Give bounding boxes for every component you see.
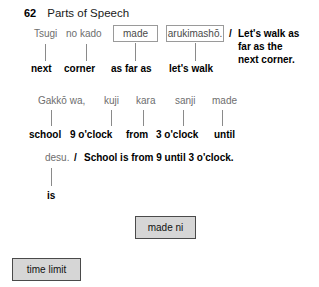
example2-gloss-5: until	[214, 129, 235, 140]
example1-gloss-3: as far as	[111, 63, 152, 74]
example2-translation-marker-wrap: /	[74, 152, 77, 163]
example1-token-4-box: arukimashō.	[166, 25, 224, 42]
example2-token-1: Gakkō wa,	[38, 95, 85, 106]
example1-token-4: arukimashō.	[168, 28, 222, 39]
example2-translation-wrap: School is from 9 until 3 o'clock.	[84, 152, 234, 163]
example2-continuation-token: desu.	[45, 152, 69, 163]
example2-translation: School is from 9 until 3 o'clock.	[84, 152, 234, 163]
example2-token-4: sanji	[175, 95, 196, 106]
example2-continuation-tick	[51, 168, 52, 186]
example2-translation-marker: /	[74, 152, 77, 163]
example1-tick-4	[195, 43, 196, 61]
example2-tick-3	[143, 110, 144, 126]
chip-made-ni[interactable]: made ni	[135, 216, 196, 239]
example2-tick-4	[183, 110, 184, 126]
example1-token-3: made	[123, 28, 148, 39]
example1-token-1: Tsugi	[34, 28, 57, 39]
example2-token-2: kuji	[104, 95, 119, 106]
example1-tick-3	[135, 43, 136, 61]
example2-token-5: made	[212, 95, 237, 106]
example1-tick-1	[45, 44, 46, 61]
example2-tick-2	[111, 110, 112, 126]
page-title: Parts of Speech	[47, 7, 129, 19]
example1-tick-2	[86, 44, 87, 61]
example1-translation-marker: /	[229, 28, 232, 39]
example1-token-2: no kado	[66, 28, 102, 39]
example2-continuation-gloss: is	[47, 190, 55, 201]
page-header: 62 Parts of Speech	[24, 7, 129, 19]
page-canvas: 62 Parts of Speech Tsugi no kado made ar…	[0, 0, 319, 287]
example1-translation: /	[229, 27, 232, 41]
chip-time-limit[interactable]: time limit	[12, 258, 81, 281]
example1-translation-line-3: next corner.	[238, 53, 295, 67]
example1-gloss-2: corner	[64, 63, 95, 74]
example2-tick-1	[51, 110, 52, 126]
example1-gloss-1: next	[31, 63, 52, 74]
example2-gloss-4: 3 o'clock	[156, 129, 198, 140]
chip-time-limit-label: time limit	[27, 264, 66, 275]
example1-token-3-box: made	[113, 25, 158, 42]
example1-translation-line-1: Let's walk as	[238, 27, 299, 41]
example1-translation-line-2: far as the	[238, 40, 282, 54]
example2-gloss-1: school	[29, 129, 61, 140]
example1-gloss-4: let's walk	[169, 63, 213, 74]
example2-token-3: kara	[136, 95, 155, 106]
section-number: 62	[24, 7, 36, 19]
example2-gloss-3: from	[126, 129, 148, 140]
example2-gloss-2: 9 o'clock	[70, 129, 112, 140]
chip-made-ni-label: made ni	[148, 222, 184, 233]
example2-continuation-row: desu.	[45, 152, 69, 163]
example2-tick-5	[222, 110, 223, 126]
